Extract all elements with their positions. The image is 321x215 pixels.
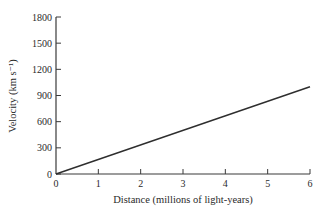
chart: 0300600900120015001800 0123456 Distance … [0, 0, 321, 215]
data-series [56, 87, 310, 174]
y-tick-label: 1800 [32, 12, 52, 23]
y-axis-title: Velocity (km s⁻¹) [7, 59, 19, 133]
y-tick-label: 1200 [32, 64, 52, 75]
y-tick-label: 300 [37, 142, 52, 153]
x-tick-label: 0 [54, 178, 59, 189]
x-tick-label: 2 [138, 178, 143, 189]
x-tick-label: 6 [308, 178, 313, 189]
x-tick-label: 5 [265, 178, 270, 189]
x-tick-label: 4 [223, 178, 228, 189]
y-tick-label: 600 [37, 116, 52, 127]
x-axis: 0123456 [54, 169, 313, 189]
x-tick-label: 1 [96, 178, 101, 189]
y-tick-label: 1500 [32, 38, 52, 49]
x-tick-label: 3 [181, 178, 186, 189]
y-tick-label: 900 [37, 90, 52, 101]
x-axis-title: Distance (millions of light-years) [113, 194, 253, 206]
y-axis: 0300600900120015001800 [32, 12, 61, 180]
y-tick-label: 0 [47, 169, 52, 180]
series-line [56, 87, 310, 174]
